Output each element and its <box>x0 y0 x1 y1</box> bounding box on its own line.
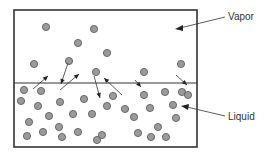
vapor-particle <box>42 23 49 30</box>
liquid-particle <box>88 110 95 117</box>
liquid-particle <box>23 132 30 139</box>
vapor-pointer-arrow <box>180 17 225 28</box>
liquid-particle <box>20 86 27 93</box>
liquid-particle <box>37 87 44 94</box>
liquid-particle <box>169 101 176 108</box>
liquid-particle <box>17 97 24 104</box>
vapor-particle <box>30 60 37 67</box>
liquid-label: Liquid <box>228 111 255 122</box>
vapor-particle <box>74 39 81 46</box>
liquid-particle <box>184 91 191 98</box>
liquid-particle <box>74 128 81 135</box>
liquid-pointer-arrowhead-icon <box>181 104 189 110</box>
vapor-particle <box>65 57 72 64</box>
liquid-particle <box>162 133 169 140</box>
liquid-particle <box>58 133 65 140</box>
liquid-particle <box>34 102 41 109</box>
vapor-pointer-arrowhead-icon <box>175 25 183 31</box>
liquid-particle <box>121 105 128 112</box>
vapor-liquid-diagram: Vapor Liquid <box>0 0 269 154</box>
liquid-particle <box>45 112 52 119</box>
liquid-particle <box>69 110 76 117</box>
vapor-particle <box>177 60 184 67</box>
vapor-particle <box>140 68 147 75</box>
liquid-particle <box>134 129 141 136</box>
liquid-pointer-arrow <box>187 107 225 116</box>
liquid-particle <box>172 114 179 121</box>
liquid-particle <box>80 95 87 102</box>
liquid-particle <box>130 113 137 120</box>
liquid-particle <box>147 133 154 140</box>
liquid-particle <box>109 92 116 99</box>
liquid-particle <box>140 91 147 98</box>
liquid-particle <box>146 104 153 111</box>
liquid-particle <box>55 123 62 130</box>
liquid-particle <box>161 88 168 95</box>
vapor-particle <box>92 68 99 75</box>
container-box <box>14 10 197 147</box>
vapor-particle <box>103 49 110 56</box>
liquid-particle <box>93 136 100 143</box>
vapor-particle <box>90 25 97 32</box>
liquid-particle <box>103 102 110 109</box>
liquid-particle <box>56 98 63 105</box>
vapor-label: Vapor <box>228 11 255 22</box>
liquid-particle <box>39 128 46 135</box>
liquid-particle <box>154 123 161 130</box>
liquid-particle <box>25 118 32 125</box>
